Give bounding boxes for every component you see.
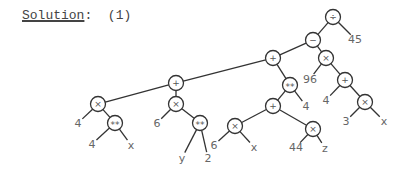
operator-node-power: ** xyxy=(193,116,208,131)
operator-node-power: ** xyxy=(108,116,123,131)
tree-edge xyxy=(240,132,250,143)
node-operator-label: ** xyxy=(111,120,121,130)
leaf-node: 3 xyxy=(343,115,350,128)
node-operator-label: + xyxy=(172,78,180,88)
operator-node-minus: − xyxy=(306,33,321,48)
leaf-node: x xyxy=(381,115,388,128)
tree-edge xyxy=(96,128,109,140)
tree-edge xyxy=(202,130,207,152)
tree-edge xyxy=(277,64,286,78)
leaf-node: 4 xyxy=(89,138,96,151)
leaf-node: x xyxy=(251,141,258,154)
node-operator-label: × xyxy=(94,99,102,109)
leaf-node: y xyxy=(179,152,186,165)
tree-edge xyxy=(330,85,340,95)
tree-edge xyxy=(350,107,359,116)
tree-edge xyxy=(103,110,110,118)
expression-tree: ÷−45+×96+4×3x**4+×6x×44z+×4**4x×6**y2 xyxy=(0,0,407,173)
leaf-node: 2 xyxy=(205,152,212,165)
node-operator-label: ** xyxy=(196,120,206,130)
leaf-node: 4 xyxy=(303,100,310,113)
leaf-node: 4 xyxy=(323,94,330,107)
node-operator-label: × xyxy=(231,121,239,131)
tree-edge xyxy=(105,85,169,102)
node-operator-label: × xyxy=(322,53,330,63)
tree-edge xyxy=(280,43,306,55)
operator-node-plus: + xyxy=(338,73,353,88)
leaf-node: z xyxy=(322,142,328,155)
operator-node-times: × xyxy=(91,97,106,112)
operator-node-plus: + xyxy=(169,76,184,91)
operator-node-times: × xyxy=(228,119,243,134)
tree-edge xyxy=(183,60,265,81)
tree-edge xyxy=(317,135,322,143)
tree-edge xyxy=(278,91,286,100)
tree-edge xyxy=(295,91,303,101)
tree-edge xyxy=(182,109,194,119)
operator-node-times: × xyxy=(319,51,334,66)
leaf-node: x xyxy=(128,139,135,152)
node-operator-label: ** xyxy=(286,82,296,92)
leaf-node: 6 xyxy=(211,139,218,152)
leaf-node: 6 xyxy=(154,117,161,130)
leaf-node: 45 xyxy=(348,33,362,46)
tree-nodes: ÷−45+×96+4×3x**4+×6x×44z+×4**4x×6**y2 xyxy=(75,10,388,165)
node-operator-label: × xyxy=(361,97,369,107)
node-operator-label: ÷ xyxy=(329,12,337,22)
operator-node-plus: + xyxy=(266,51,281,66)
tree-edge xyxy=(119,129,127,140)
operator-node-times: × xyxy=(169,97,184,112)
operator-node-times: × xyxy=(358,95,373,110)
operator-node-power: ** xyxy=(283,78,298,93)
operator-node-plus: + xyxy=(266,99,281,114)
tree-edge xyxy=(331,64,340,75)
node-operator-label: × xyxy=(309,124,317,134)
node-operator-label: × xyxy=(172,99,180,109)
operator-node-times: × xyxy=(306,122,321,137)
node-operator-label: + xyxy=(269,53,277,63)
tree-edge xyxy=(185,130,197,153)
tree-edge xyxy=(317,46,321,52)
tree-edge xyxy=(218,131,229,141)
tree-edge xyxy=(350,86,360,97)
leaf-node: 96 xyxy=(303,73,317,86)
tree-edge xyxy=(370,107,379,116)
tree-edge xyxy=(242,109,267,122)
leaf-node: 44 xyxy=(289,141,303,154)
node-operator-label: + xyxy=(269,101,277,111)
tree-edge xyxy=(318,23,328,35)
tree-edge xyxy=(82,109,92,119)
tree-edge xyxy=(161,109,170,118)
node-operator-label: − xyxy=(309,35,317,45)
leaf-node: 4 xyxy=(75,117,82,130)
node-operator-label: + xyxy=(341,75,349,85)
operator-node-divide: ÷ xyxy=(326,10,341,25)
